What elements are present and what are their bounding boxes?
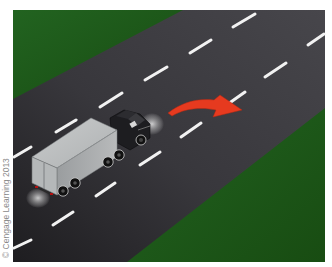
road-illustration bbox=[0, 0, 332, 267]
picture-frame bbox=[13, 10, 325, 262]
copyright-credit: © Cengage Learning 2013 bbox=[1, 158, 11, 258]
taillight-glow bbox=[26, 188, 50, 208]
